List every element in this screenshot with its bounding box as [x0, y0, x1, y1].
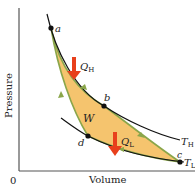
heat-in-label: QH — [80, 61, 94, 74]
point-a — [48, 25, 53, 30]
x-axis-label: Volume — [88, 174, 126, 185]
point-a-label: a — [55, 23, 61, 34]
origin-label: 0 — [10, 175, 16, 186]
point-d — [85, 133, 90, 138]
point-c-label: c — [177, 150, 182, 160]
point-b — [101, 103, 106, 108]
point-c — [177, 159, 182, 164]
work-label: W — [83, 112, 96, 125]
isotherm-cold-label: TL — [184, 157, 195, 170]
direction-arrow-icon — [58, 91, 64, 98]
y-axis-label: Pressure — [3, 73, 14, 118]
point-b-label: b — [104, 92, 110, 103]
carnot-pv-diagram: a b c d QH QL W TH TL Pressure Volume 0 — [0, 0, 195, 192]
point-d-label: d — [78, 137, 84, 148]
isotherm-hot-label: TH — [181, 136, 194, 149]
